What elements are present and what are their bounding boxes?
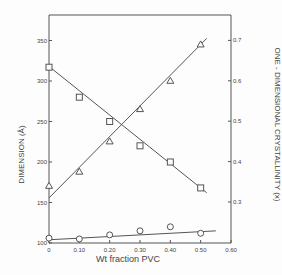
fit-line-circles: [49, 231, 216, 240]
x-tick-label: 0.50: [195, 247, 207, 253]
y-right-tick-label: 0.7: [233, 37, 242, 43]
chart-canvas: 00.100.200.300.400.500.60100150200250300…: [0, 0, 282, 275]
x-tick-label: 0.10: [73, 247, 85, 253]
y-tick-label: 350: [37, 38, 48, 44]
x-tick-label: 0: [47, 247, 51, 253]
y-right-tick-label: 0.3: [233, 199, 242, 205]
y-axis-right-label: ONE - DIMENSIONAL CRYSTALLINITY (x): [273, 30, 282, 220]
circle-marker: [198, 230, 204, 236]
circle-marker: [107, 232, 113, 238]
circle-marker: [137, 228, 143, 234]
triangle-marker: [46, 182, 53, 188]
y-tick-label: 100: [37, 240, 48, 246]
y-right-tick-label: 0.5: [233, 118, 242, 124]
x-tick-label: 0.40: [164, 247, 176, 253]
x-axis-label: Wt fraction PVC: [96, 254, 160, 264]
y-axis-label: DIMENSION (Å): [17, 120, 26, 190]
chart-figure: 00.100.200.300.400.500.60100150200250300…: [0, 0, 282, 275]
square-marker: [137, 143, 143, 149]
square-marker: [198, 185, 204, 191]
square-marker: [107, 119, 113, 125]
y-right-tick-label: 0.6: [233, 78, 242, 84]
y-tick-label: 200: [37, 159, 48, 165]
square-marker: [46, 64, 52, 70]
square-marker: [76, 94, 82, 100]
y-tick-label: 250: [37, 119, 48, 125]
y-tick-label: 150: [37, 200, 48, 206]
x-tick-label: 0.20: [104, 247, 116, 253]
circle-marker: [167, 224, 173, 230]
square-marker: [167, 159, 173, 165]
x-tick-label: 0.30: [134, 247, 146, 253]
y-right-tick-label: 0.4: [233, 159, 242, 165]
x-tick-label: 0.60: [225, 247, 237, 253]
circle-marker: [46, 235, 52, 241]
circle-marker: [76, 236, 82, 242]
y-tick-label: 300: [37, 78, 48, 84]
